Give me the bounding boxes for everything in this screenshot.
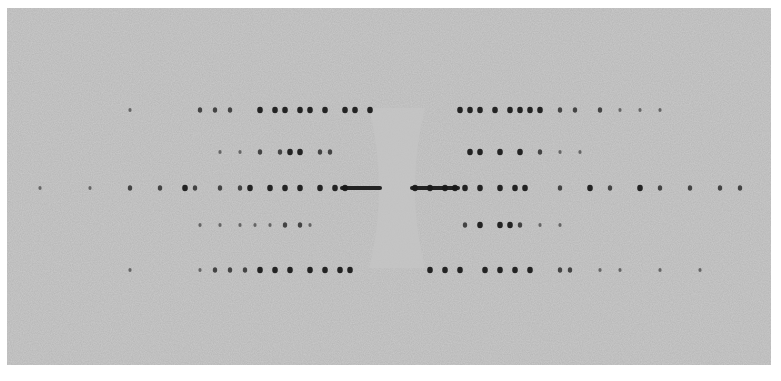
diffraction-spot: [193, 185, 197, 190]
diffraction-spot: [558, 223, 561, 227]
diffraction-spot: [213, 267, 217, 272]
diffraction-spot: [287, 267, 293, 274]
diffraction-spot: [558, 107, 562, 112]
diffraction-spot: [412, 185, 418, 192]
diffraction-spot: [497, 267, 503, 274]
diffraction-spot: [558, 185, 562, 190]
diffraction-spot: [452, 185, 458, 192]
diffraction-spot: [257, 267, 263, 274]
diffraction-spot: [587, 185, 593, 192]
diffraction-spot: [442, 267, 448, 274]
diffraction-spot: [128, 185, 132, 190]
diffraction-spot: [267, 185, 273, 192]
diffraction-spot: [477, 185, 483, 192]
diffraction-spot: [427, 185, 433, 192]
diffraction-spot: [558, 267, 562, 272]
diffraction-spot: [278, 149, 282, 154]
diffraction-spot: [247, 185, 253, 192]
diffraction-spot: [307, 107, 313, 114]
diffraction-spot: [342, 107, 348, 114]
diffraction-spot: [128, 268, 131, 272]
diffraction-spot: [517, 107, 523, 114]
diffraction-spot: [578, 150, 581, 154]
diffraction-spot: [618, 268, 621, 272]
diffraction-spot: [257, 107, 263, 114]
diffraction-spot: [367, 107, 373, 114]
diffraction-spot: [512, 185, 518, 192]
diffraction-spot: [638, 108, 641, 112]
diffraction-spot: [658, 268, 661, 272]
diffraction-spot: [258, 149, 262, 154]
diffraction-spot: [637, 185, 643, 192]
diffraction-spot: [608, 185, 612, 190]
diffraction-spot: [512, 267, 518, 274]
diffraction-spot: [287, 149, 293, 156]
diffraction-spot: [297, 149, 303, 156]
diffraction-spot: [322, 267, 328, 274]
diffraction-spot: [518, 222, 522, 227]
diffraction-spot: [213, 107, 217, 112]
diffraction-spot: [328, 149, 332, 154]
diffraction-spot: [538, 223, 541, 227]
diffraction-spot: [467, 149, 473, 156]
diffraction-spot: [507, 222, 513, 229]
diffraction-spot: [298, 222, 302, 227]
diffraction-spot: [558, 150, 561, 154]
diffraction-spot: [238, 223, 241, 227]
diffraction-spot: [698, 268, 701, 272]
diffraction-spot: [272, 267, 278, 274]
diffraction-spot: [738, 185, 742, 190]
diffraction-spot: [253, 223, 256, 227]
diffraction-spot: [497, 149, 503, 156]
diffraction-spot: [537, 107, 543, 114]
diffraction-spot: [352, 107, 358, 114]
diffraction-spot: [158, 185, 162, 190]
diffraction-spot: [598, 107, 602, 112]
diffraction-spot: [228, 107, 232, 112]
diffraction-spot: [218, 150, 221, 154]
diffraction-spot: [658, 108, 661, 112]
diffraction-spot: [282, 107, 288, 114]
diffraction-spot: [538, 149, 542, 154]
diffraction-spot: [182, 185, 188, 192]
diffraction-spots: [7, 8, 771, 365]
diffraction-spot: [658, 185, 662, 190]
diffraction-spot: [297, 107, 303, 114]
diffraction-spot: [442, 185, 448, 192]
diffraction-spot: [283, 222, 287, 227]
diffraction-spot: [228, 267, 232, 272]
diffraction-spot: [308, 223, 311, 227]
diffraction-spot: [457, 107, 463, 114]
diffraction-spot: [522, 185, 528, 192]
diffraction-spot: [317, 185, 323, 192]
diffraction-spot: [272, 107, 278, 114]
diffraction-spot: [337, 267, 343, 274]
diffraction-spot: [218, 223, 221, 227]
diffraction-spot: [268, 223, 271, 227]
diffraction-spot: [527, 107, 533, 114]
diffraction-spot: [198, 107, 202, 112]
diffraction-spot: [318, 149, 322, 154]
diffraction-spot: [198, 268, 201, 272]
diffraction-spot: [322, 107, 328, 114]
diffraction-spot: [477, 222, 483, 229]
diffraction-spot: [347, 267, 353, 274]
diffraction-spot: [282, 185, 288, 192]
diffraction-spot: [598, 268, 601, 272]
diffraction-spot: [497, 222, 503, 229]
diffraction-spot: [307, 267, 313, 274]
diffraction-spot: [718, 185, 722, 190]
diffraction-spot: [463, 222, 467, 227]
diffraction-spot: [467, 107, 473, 114]
diffraction-spot: [477, 107, 483, 114]
diffraction-spot: [332, 185, 338, 192]
diffraction-spot: [38, 186, 41, 190]
diffraction-spot: [527, 267, 533, 274]
diffraction-spot: [457, 267, 463, 274]
diffraction-spot: [238, 185, 242, 190]
diffraction-spot: [482, 267, 488, 274]
diffraction-spot: [198, 223, 201, 227]
diffraction-spot: [128, 108, 131, 112]
diffraction-spot: [492, 107, 498, 114]
diffraction-spot: [477, 149, 483, 156]
